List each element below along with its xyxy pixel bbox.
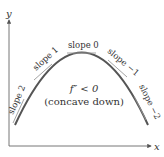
second-derivative-condition: f″ < 0 — [69, 83, 99, 94]
label-slope-0: slope 0 — [68, 40, 99, 50]
y-axis-label: y — [5, 8, 12, 19]
label-slope-neg1: slope −1 — [106, 46, 141, 78]
x-axis-label: x — [154, 141, 160, 152]
label-slope-neg2: slope −2 — [137, 82, 163, 120]
axes: y x — [5, 8, 160, 152]
concavity-description: (concave down) — [44, 96, 124, 107]
label-slope-1: slope 1 — [31, 44, 61, 72]
concavity-annotation: f″ < 0 (concave down) — [44, 83, 124, 107]
concavity-diagram: y x slope 2 slope 1 slope 0 slope −1 slo… — [0, 0, 164, 157]
